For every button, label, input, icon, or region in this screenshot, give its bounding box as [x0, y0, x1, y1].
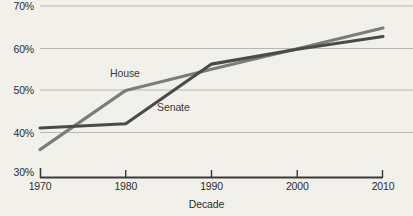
- x-axis-title: Decade: [0, 198, 413, 210]
- x-tick-label-1990: 1990: [189, 180, 235, 192]
- series-annotation-house: House: [110, 67, 140, 79]
- y-tick-label-30: 30%: [2, 166, 34, 178]
- x-tick-label-1980: 1980: [103, 180, 149, 192]
- gridlines: [40, 6, 413, 133]
- y-tick-label-60: 60%: [2, 43, 34, 55]
- series-annotation-senate: Senate: [157, 101, 190, 113]
- x-tick-label-2000: 2000: [274, 180, 320, 192]
- x-tick-label-1970: 1970: [17, 180, 63, 192]
- y-tick-label-50: 50%: [2, 84, 34, 96]
- y-tick-label-70: 70%: [2, 0, 34, 12]
- chart-container: 70% 60% 50% 40% 30% 1970 1980 1990 2000 …: [0, 0, 413, 216]
- series-line-house: [40, 28, 383, 150]
- y-tick-label-40: 40%: [2, 127, 34, 139]
- axes: [40, 168, 383, 178]
- x-tick-label-2010: 2010: [360, 180, 406, 192]
